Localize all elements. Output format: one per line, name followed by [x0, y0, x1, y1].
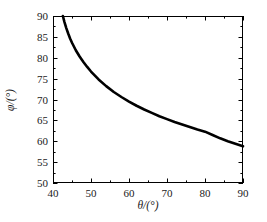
y-axis-title: φ/(°) [4, 89, 16, 111]
y-axis-symbol: φ/(°) [4, 89, 16, 111]
y-tick-label: 50 [20, 177, 48, 189]
y-tick-label: 65 [20, 114, 48, 126]
minor-tick-marks [53, 16, 243, 183]
x-axis-symbol: θ/(°) [137, 199, 158, 211]
axes-frame [54, 17, 243, 183]
x-axis-title: θ/(°) [137, 199, 158, 211]
figure-container: 505560657075808590 405060708090 θ/(°) φ/… [0, 0, 267, 222]
x-tick-label: 80 [200, 187, 211, 199]
x-tick-label: 70 [162, 187, 173, 199]
y-tick-label: 60 [20, 135, 48, 147]
y-tick-label: 85 [20, 31, 48, 43]
major-tick-marks [53, 16, 244, 184]
y-tick-label: 75 [20, 73, 48, 85]
y-tick-label: 55 [20, 156, 48, 168]
x-tick-label: 50 [86, 187, 97, 199]
y-tick-label: 70 [20, 94, 48, 106]
data-series-0 [63, 16, 243, 146]
x-tick-label: 40 [48, 187, 59, 199]
y-tick-label: 90 [20, 10, 48, 22]
y-tick-label: 80 [20, 52, 48, 64]
x-tick-label: 90 [238, 187, 249, 199]
data-curve-group [63, 16, 243, 146]
x-tick-label: 60 [124, 187, 135, 199]
